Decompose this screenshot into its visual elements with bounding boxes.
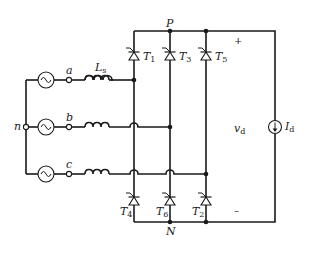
sine-source-b-icon	[38, 119, 54, 135]
thyristor-T6-icon	[162, 193, 176, 205]
label-T6: T6	[156, 206, 168, 219]
terminal-a	[66, 77, 71, 82]
label-plus: +	[234, 36, 242, 46]
thyristor-T4-icon	[126, 193, 140, 205]
inductor-a-coil	[85, 76, 109, 81]
label-phase-b: b	[66, 112, 73, 123]
current-source-icon	[269, 121, 282, 134]
label-phase-c: c	[66, 159, 72, 170]
thyristor-T5-icon	[198, 48, 212, 60]
label-T2: T2	[192, 206, 204, 219]
label-node-P: P	[166, 18, 173, 29]
terminal-c	[66, 171, 71, 176]
label-minus: –	[234, 206, 239, 216]
inductor-b-coil	[85, 123, 109, 128]
inductor-c-coil	[85, 170, 109, 175]
thyristor-T3-icon	[162, 48, 176, 60]
positive-rail	[134, 31, 275, 121]
sine-source-a-icon	[38, 72, 54, 88]
label-inductor: Ls	[95, 62, 106, 75]
terminal-b	[66, 124, 71, 129]
thyristor-bridge-diagram: a b c n Ls P N T1 T3 T5 T4 T6 T2 + – vd …	[0, 0, 312, 253]
label-neutral: n	[14, 121, 21, 132]
label-phase-a: a	[66, 65, 73, 76]
label-T3: T3	[179, 51, 191, 64]
label-T5: T5	[215, 51, 227, 64]
sine-source-c-icon	[38, 166, 54, 182]
label-output-current: Id	[285, 121, 294, 134]
thyristor-T1-icon	[126, 48, 140, 60]
label-T4: T4	[120, 206, 132, 219]
neutral-terminal	[23, 124, 28, 129]
label-output-voltage: vd	[234, 123, 245, 136]
source-side	[23, 72, 206, 182]
label-T1: T1	[143, 51, 155, 64]
label-node-N: N	[166, 226, 176, 237]
thyristor-T2-icon	[198, 193, 212, 205]
